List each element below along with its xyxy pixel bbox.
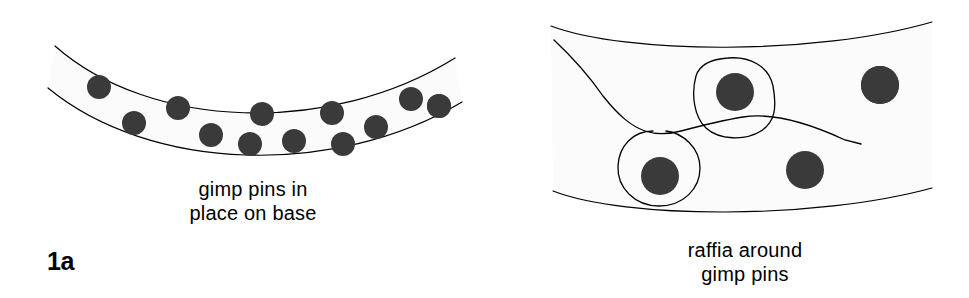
gimp-pin bbox=[282, 129, 306, 153]
gimp-pin bbox=[399, 87, 423, 111]
panel-1b: 1 raffia aroundgimp pins 1b bbox=[485, 0, 969, 298]
panel-1a: gimp pins inplace on base 1a bbox=[0, 0, 485, 298]
gimp-pin bbox=[87, 75, 111, 99]
gimp-pin-1 bbox=[641, 157, 679, 195]
gimp-pin bbox=[122, 111, 146, 135]
panel-1b-caption: raffia aroundgimp pins bbox=[595, 238, 895, 286]
figure-root: gimp pins inplace on base 1a bbox=[0, 0, 969, 298]
gimp-pin bbox=[250, 102, 274, 126]
gimp-pin bbox=[427, 94, 451, 118]
gimp-pin bbox=[166, 96, 190, 120]
caption-line-2: gimp pins bbox=[701, 263, 788, 285]
caption-line-2: place on base bbox=[189, 202, 316, 224]
gimp-pin bbox=[238, 132, 262, 156]
gimp-pin bbox=[364, 115, 388, 139]
panel-1a-caption: gimp pins inplace on base bbox=[118, 177, 388, 225]
gimp-pin-3 bbox=[786, 151, 824, 189]
gimp-pin bbox=[320, 101, 344, 125]
gimp-pin-5 bbox=[861, 66, 899, 104]
gimp-pin-2 bbox=[716, 73, 754, 111]
gimp-pin bbox=[199, 123, 223, 147]
caption-line-1: raffia around bbox=[688, 239, 803, 261]
caption-line-1: gimp pins in bbox=[198, 178, 307, 200]
gimp-pin bbox=[331, 132, 355, 156]
figure-label-1a: 1a bbox=[47, 247, 74, 276]
